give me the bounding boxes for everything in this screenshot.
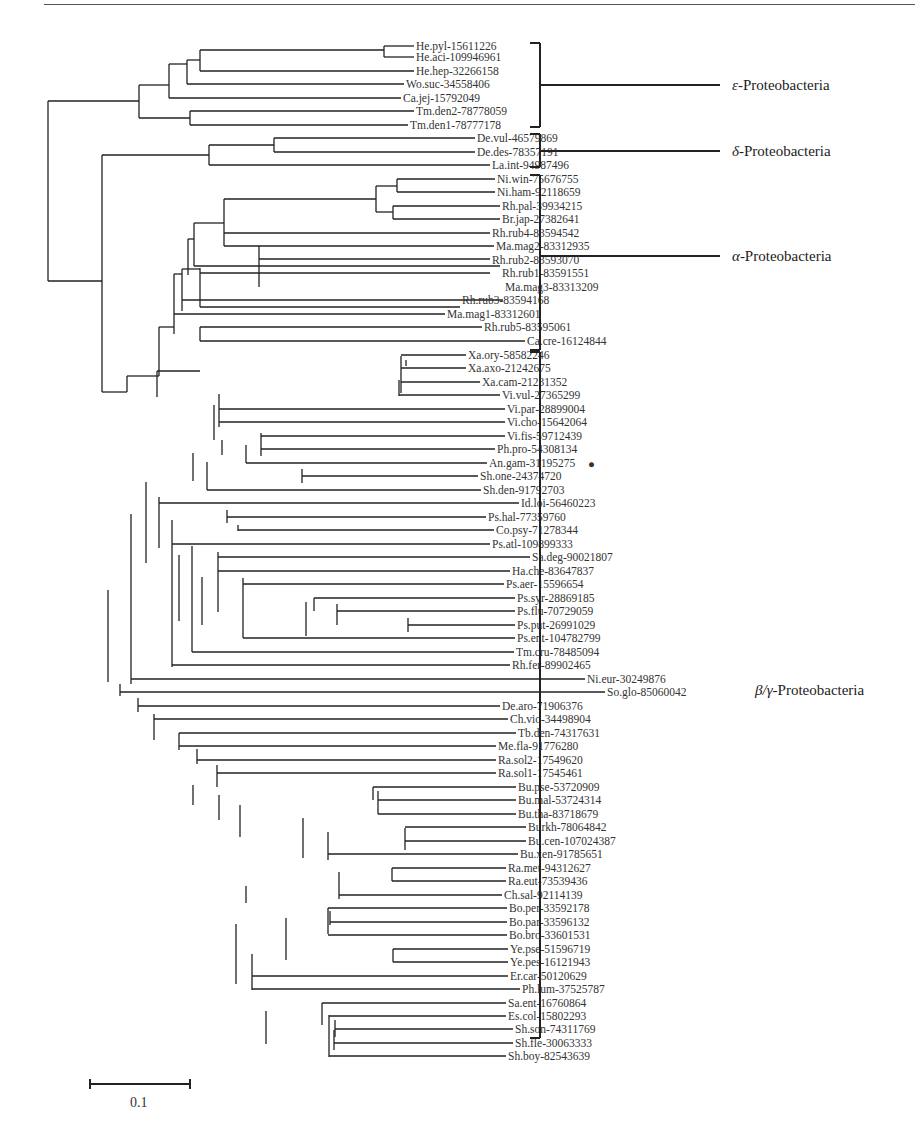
leaf-labels: He.pyl-15611226He.aci-109946961He.hep-32… xyxy=(403,40,687,1063)
leaf-label: Sa.ent-16760864 xyxy=(508,997,587,1009)
clade-label: β/γ-Proteobacteria xyxy=(754,682,865,698)
leaf-label: Bo.par-33596132 xyxy=(509,916,590,929)
leaf-label: De.vul-46579869 xyxy=(477,132,558,144)
leaf-label: Ma.mag3-83313209 xyxy=(505,281,599,294)
clade-label: α-Proteobacteria xyxy=(732,248,832,264)
leaf-label: Ni.ham-92118659 xyxy=(497,186,581,198)
leaf-label: Ma.mag2-83312935 xyxy=(496,240,590,253)
leaf-label: Ma.mag1-83312601 xyxy=(447,308,541,321)
leaf-label: Tm.den1-78777178 xyxy=(410,119,501,131)
leaf-label: Bu.tha-83718679 xyxy=(518,808,598,820)
leaf-label: Rh.fer-89902465 xyxy=(512,659,591,671)
leaf-label: Me.fla-91776280 xyxy=(498,740,578,752)
leaf-label: Rh.pal-39934215 xyxy=(502,200,582,213)
leaf-label: Es.col-15802293 xyxy=(508,1010,587,1022)
leaf-label: Tb.den-74317631 xyxy=(518,727,600,739)
leaf-label: Sa.deg-90021807 xyxy=(532,551,613,564)
leaf-label: Rh.rub3-83594168 xyxy=(462,294,549,306)
leaf-label: Ra.eut-73539436 xyxy=(508,875,588,887)
leaf-label: Ni.eur-30249876 xyxy=(587,673,666,685)
leaf-label: Ye.pse-51596719 xyxy=(510,943,591,956)
leaf-label: Vi.fis-59712439 xyxy=(507,430,582,442)
leaf-label: Ps.atl-109899333 xyxy=(492,538,573,550)
scale-bar: 0.1 xyxy=(90,1079,190,1110)
leaf-label: Rh.rub4-83594542 xyxy=(492,227,579,239)
leaf-label: Tm.cru-78485094 xyxy=(516,646,600,658)
leaf-label: Vi.cho-15642064 xyxy=(507,416,587,428)
leaf-label: Ph.lum-37525787 xyxy=(522,983,605,995)
leaf-label: So.glo-85060042 xyxy=(607,686,687,699)
leaf-label: He.hep-32266158 xyxy=(416,65,499,78)
leaf-label: Sh.son-74311769 xyxy=(515,1023,596,1035)
leaf-label: Bu.mal-53724314 xyxy=(518,794,602,806)
leaf-label: Sh.den-91792703 xyxy=(483,484,565,496)
leaf-label: Ca.jej-15792049 xyxy=(403,92,480,105)
leaf-label: Sh.fle-30063333 xyxy=(515,1037,592,1049)
leaf-label: Rh.rub1-83591551 xyxy=(502,267,589,279)
leaf-label: Rh.rub5-83595061 xyxy=(484,321,571,333)
leaf-label: Id.loi-56460223 xyxy=(521,497,596,509)
clade-label: ε-Proteobacteria xyxy=(732,77,830,93)
leaf-label: De.aro-71906376 xyxy=(502,700,583,712)
leaf-label: Bu.xen-91785651 xyxy=(520,848,603,860)
leaf-label: Ps.aer-15596654 xyxy=(506,578,584,590)
leaf-label: Sh.one-24374720 xyxy=(480,470,562,482)
leaf-label: Bu.pse-53720909 xyxy=(518,781,600,794)
clade-label: δ-Proteobacteria xyxy=(732,143,831,159)
scale-bar-label: 0.1 xyxy=(130,1095,148,1110)
phylogenetic-tree: He.pyl-15611226He.aci-109946961He.hep-32… xyxy=(0,0,915,1136)
leaf-label: Vi.par-28899004 xyxy=(507,403,585,416)
leaf-label: An.gam-31195275 xyxy=(489,457,575,470)
leaf-label: Ps.flu-70729059 xyxy=(517,605,594,617)
leaf-label: Sh.boy-82543639 xyxy=(508,1050,590,1063)
marker-dot-icon: ● xyxy=(588,458,595,470)
leaf-label: Ca.cre-16124844 xyxy=(527,335,607,347)
leaf-label: Ps.ent-104782799 xyxy=(517,632,601,644)
leaf-label: Xa.axo-21242675 xyxy=(468,362,551,374)
leaf-label: Ch.vio-34498904 xyxy=(510,713,591,725)
leaf-label: La.int-94987496 xyxy=(492,159,569,171)
leaf-label: Ps.hal-77359760 xyxy=(488,511,566,523)
leaf-label: Ch.sal-92114139 xyxy=(504,889,583,901)
leaf-label: Xa.cam-21231352 xyxy=(482,376,568,388)
leaf-label: Ps.put-26991029 xyxy=(517,619,596,632)
leaf-label: Ps.syr-28869185 xyxy=(517,592,595,605)
leaf-label: Bo.per-33592178 xyxy=(509,902,590,915)
leaf-label: Bu.cen-107024387 xyxy=(528,835,616,847)
leaf-label: Wo.suc-34558406 xyxy=(406,78,490,90)
leaf-label: Ph.pro-54308134 xyxy=(497,443,577,456)
leaf-label: Co.psy-71278344 xyxy=(496,524,578,537)
leaf-label: Ra.met-94312627 xyxy=(508,862,591,874)
leaf-label: He.aci-109946961 xyxy=(416,51,502,63)
leaf-label: Bo.bro-33601531 xyxy=(509,929,591,941)
leaf-label: Ha.che-83647837 xyxy=(512,565,594,577)
leaf-label: Ye.pes-16121943 xyxy=(510,956,591,969)
leaf-label: Vi.vul-27365299 xyxy=(502,389,580,401)
leaf-label: Er.car-50120629 xyxy=(510,970,587,982)
leaf-label: Tm.den2-78778059 xyxy=(416,105,507,117)
